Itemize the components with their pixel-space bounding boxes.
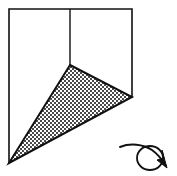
geometry-figure-canvas [0, 0, 177, 176]
figure-container: Folded square with shaded triangle and r… [0, 0, 177, 176]
